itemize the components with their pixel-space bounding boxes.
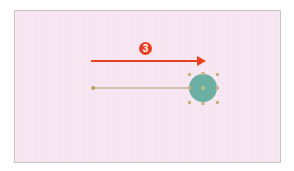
handle-bottom <box>202 102 205 105</box>
handle-left <box>188 87 191 90</box>
path-start-point[interactable] <box>91 86 95 90</box>
canvas-overlay <box>0 0 294 171</box>
handle-bottom-right <box>216 101 219 104</box>
handle-right <box>216 87 219 90</box>
step-number-badge: 3 <box>139 42 152 55</box>
handle-top-right <box>216 73 219 76</box>
motion-arrow <box>91 56 206 66</box>
handle-bottom-left <box>188 101 191 104</box>
selected-circle-shape[interactable] <box>189 74 217 102</box>
handle-top-left <box>188 73 191 76</box>
path-end-point[interactable] <box>201 86 205 90</box>
handle-top <box>202 72 205 75</box>
motion-path[interactable] <box>91 86 203 90</box>
